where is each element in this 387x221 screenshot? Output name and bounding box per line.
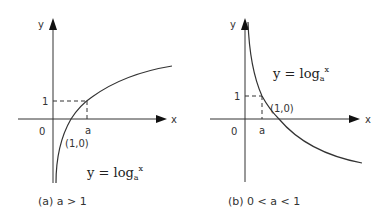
log-graphs-diagram: y x 0 1 a (1,0) y = logax (a) a > 1 y x …	[0, 0, 387, 221]
x-axis-label: x	[365, 114, 371, 125]
y-axis-arrow-icon	[49, 18, 57, 30]
a-label: a	[85, 125, 91, 136]
y-axis-label: y	[38, 19, 44, 30]
caption: (a) a > 1	[38, 195, 87, 208]
x-axis-arrow-icon	[156, 115, 167, 123]
panel-b: y x 0 1 a (1,0) y = logax (b) 0 < a < 1	[210, 18, 371, 208]
point-label: (1,0)	[65, 138, 89, 149]
one-label: 1	[42, 96, 48, 107]
origin-label: 0	[231, 126, 237, 137]
x-axis-label: x	[171, 114, 177, 125]
x-axis-arrow-icon	[349, 115, 360, 123]
equation-label: y = logax	[272, 65, 330, 83]
a-label: a	[259, 125, 265, 136]
equation-label: y = logax	[86, 164, 144, 182]
y-axis-label: y	[230, 19, 236, 30]
origin-label: 0	[39, 126, 45, 137]
caption: (b) 0 < a < 1	[228, 195, 300, 208]
panel-a: y x 0 1 a (1,0) y = logax (a) a > 1	[18, 18, 177, 208]
log-curve	[248, 22, 362, 163]
one-label: 1	[234, 91, 240, 102]
